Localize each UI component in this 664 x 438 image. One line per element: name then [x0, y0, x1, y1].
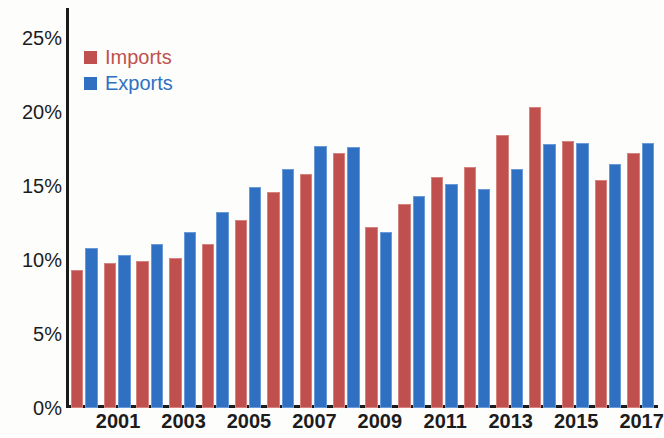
x-axis-tick-label: 2005	[227, 410, 272, 433]
y-axis-tick-label: 5%	[4, 322, 62, 345]
legend-item-imports: Imports	[84, 44, 173, 70]
bar-group	[364, 8, 397, 408]
bar-group	[494, 8, 527, 408]
bar-group	[625, 8, 658, 408]
x-axis-tick-label: 2009	[358, 410, 403, 433]
bar-exports[interactable]	[380, 232, 392, 408]
y-axis-tick-label: 25%	[4, 26, 62, 49]
bar-imports[interactable]	[202, 244, 214, 408]
bar-group	[462, 8, 495, 408]
bar-exports[interactable]	[184, 232, 196, 408]
bar-group	[396, 8, 429, 408]
bar-group	[527, 8, 560, 408]
bar-imports[interactable]	[562, 141, 574, 408]
bar-exports[interactable]	[347, 147, 359, 408]
x-axis-tick-label: 2011	[424, 410, 467, 433]
bar-exports[interactable]	[216, 212, 228, 408]
bar-imports[interactable]	[169, 258, 181, 408]
bar-exports[interactable]	[314, 146, 326, 408]
bar-group	[298, 8, 331, 408]
x-axis-tick-label: 2013	[489, 410, 534, 433]
bar-imports[interactable]	[529, 107, 541, 408]
y-axis-tick-labels: 0%5%10%15%20%25%	[0, 0, 62, 438]
x-axis-tick-label: 2015	[554, 410, 599, 433]
bar-exports[interactable]	[642, 143, 654, 408]
bar-exports[interactable]	[445, 184, 457, 408]
bar-exports[interactable]	[118, 255, 130, 408]
legend-label-imports: Imports	[105, 47, 172, 67]
x-axis-tick-label: 2003	[161, 410, 206, 433]
bar-group	[331, 8, 364, 408]
bar-imports[interactable]	[627, 153, 639, 408]
bar-exports[interactable]	[151, 244, 163, 408]
y-axis-tick-label: 10%	[4, 248, 62, 271]
bar-imports[interactable]	[431, 177, 443, 408]
x-axis-tick-label: 2007	[292, 410, 337, 433]
legend-item-exports: Exports	[84, 70, 173, 96]
bar-imports[interactable]	[365, 227, 377, 408]
bar-exports[interactable]	[249, 187, 261, 408]
bar-exports[interactable]	[413, 196, 425, 408]
bar-group	[233, 8, 266, 408]
bar-imports[interactable]	[71, 270, 83, 408]
bar-imports[interactable]	[496, 135, 508, 408]
bar-exports[interactable]	[576, 143, 588, 408]
bar-imports[interactable]	[136, 261, 148, 408]
bar-exports[interactable]	[609, 164, 621, 408]
bar-group	[560, 8, 593, 408]
bar-imports[interactable]	[333, 153, 345, 408]
bar-imports[interactable]	[104, 263, 116, 408]
bar-imports[interactable]	[300, 174, 312, 408]
bar-exports[interactable]	[511, 169, 523, 408]
legend-swatch-exports-icon	[84, 77, 97, 90]
bar-group	[265, 8, 298, 408]
bar-imports[interactable]	[235, 220, 247, 408]
bar-imports[interactable]	[464, 167, 476, 408]
y-axis-tick-label: 20%	[4, 100, 62, 123]
bar-exports[interactable]	[543, 144, 555, 408]
legend-label-exports: Exports	[105, 73, 173, 93]
bar-group	[429, 8, 462, 408]
y-axis-tick-label: 15%	[4, 174, 62, 197]
bar-group	[593, 8, 626, 408]
bar-exports[interactable]	[85, 248, 97, 408]
x-axis-tick-labels: 200120032005200720092011201320152017	[0, 410, 662, 438]
bar-imports[interactable]	[267, 192, 279, 408]
bar-imports[interactable]	[595, 180, 607, 408]
legend-swatch-imports-icon	[84, 51, 97, 64]
bar-exports[interactable]	[282, 169, 294, 408]
bar-imports[interactable]	[398, 204, 410, 408]
bar-exports[interactable]	[478, 189, 490, 408]
chart-legend: Imports Exports	[84, 44, 173, 96]
x-axis-tick-label: 2017	[619, 410, 664, 433]
x-axis-tick-label: 2001	[96, 410, 141, 433]
bar-group	[200, 8, 233, 408]
